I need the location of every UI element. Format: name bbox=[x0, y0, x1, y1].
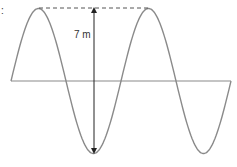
height-label: 7 m bbox=[74, 29, 91, 40]
wave-diagram: : 7 m bbox=[0, 0, 237, 167]
corner-mark: : bbox=[1, 5, 4, 16]
